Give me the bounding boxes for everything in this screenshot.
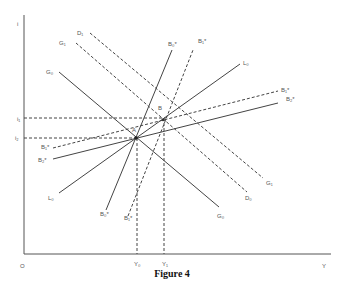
diagram-label: i [17,21,18,27]
diagram-label: i₂ [15,135,19,141]
diagram-label: B₁* [281,87,289,93]
diagram-label: G₀ [46,69,53,75]
diagram-label: i₁ [17,116,20,122]
diagram-label: B₂* [286,96,295,102]
diagram-label: B₀* [100,211,109,217]
curve-d1 [90,33,263,178]
point-a-marker [134,136,138,140]
diagram-label: G₀ [217,213,224,219]
figure-caption: Figure 4 [0,268,344,279]
diagram-label: B₁* [124,215,132,221]
point-b-marker [162,119,164,121]
diagram-label: G₁ [59,40,66,46]
diagram-label: B₂* [38,157,47,163]
diagram-label: L₀ [48,195,54,201]
diagram-label: B₀* [168,41,177,47]
diagram-label: Y₁ [162,261,168,267]
diagram-label: A [132,127,136,133]
diagram-label: Y₀ [134,261,141,267]
curve-b2-star [53,103,278,159]
diagram-label: D₀ [245,195,252,201]
diagram-label: B₁* [41,144,49,150]
diagram-label: D₁ [77,30,83,36]
curve-b1-star-flat [53,91,278,148]
diagram-label: G₁ [266,180,273,186]
diagram-label: B [158,105,162,111]
diagram-label: B₁* [198,38,206,44]
diagram-label: L₀ [243,60,249,66]
